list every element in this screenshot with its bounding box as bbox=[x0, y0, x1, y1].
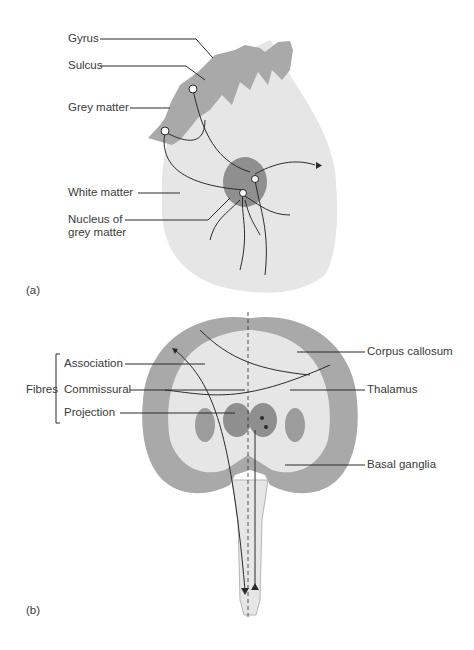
thalamus-left bbox=[223, 403, 251, 437]
label-commissural: Commissural bbox=[64, 383, 131, 396]
panel-a-illustration bbox=[0, 0, 474, 650]
thalamus-right bbox=[249, 403, 277, 437]
brainstem bbox=[232, 480, 268, 615]
label-thalamus: Thalamus bbox=[367, 383, 418, 396]
label-white-matter: White matter bbox=[68, 186, 133, 199]
label-fibres: Fibres bbox=[26, 383, 58, 396]
label-corpus-callosum: Corpus callosum bbox=[367, 345, 453, 358]
grey-matter-nucleus bbox=[223, 157, 267, 207]
figure: Gyrus Sulcus Grey matter White matter Nu… bbox=[0, 0, 474, 650]
label-grey-matter: Grey matter bbox=[68, 101, 129, 114]
label-projection: Projection bbox=[64, 406, 115, 419]
label-basal-ganglia: Basal ganglia bbox=[367, 458, 436, 471]
panel-b-tag: (b) bbox=[26, 604, 40, 616]
label-sulcus: Sulcus bbox=[68, 59, 103, 72]
panel-a-tag: (a) bbox=[26, 284, 40, 296]
label-nucleus-line1: Nucleus of bbox=[68, 213, 122, 226]
label-association: Association bbox=[64, 357, 123, 370]
label-gyrus: Gyrus bbox=[68, 32, 99, 45]
basal-ganglia-right bbox=[285, 408, 305, 442]
label-nucleus-line2: grey matter bbox=[68, 226, 126, 239]
